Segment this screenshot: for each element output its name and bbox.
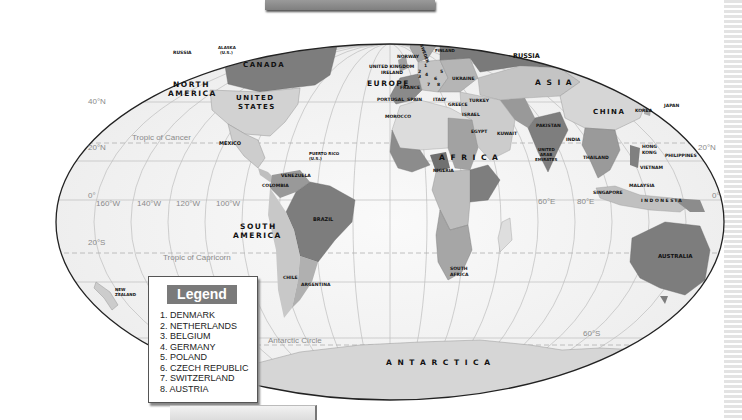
ukraine-label: UKRAINE <box>452 76 475 81</box>
mexico-label: MEXICO <box>219 140 241 146</box>
legend-item: 6. CZECH REPUBLIC <box>160 363 249 374</box>
nigeria-label: NIGERIA <box>433 168 454 173</box>
europe-number-3: 3 <box>418 74 421 79</box>
lat-40n-label: 40°N <box>88 97 106 106</box>
bottom-bar <box>170 405 317 420</box>
lat-20s-label: 20°S <box>88 238 105 247</box>
north-america-label-2: AMERICA <box>168 89 217 98</box>
brazil-label: BRAZIL <box>313 216 334 222</box>
legend-item: 2. NETHERLANDS <box>160 321 249 332</box>
lat-0-right-label: 0° <box>712 191 720 200</box>
norway-label: NORWAY <box>397 54 420 59</box>
south-africa-label-2: AFRICA <box>450 272 469 277</box>
indonesia-label: I N D O N E S I A <box>641 198 682 203</box>
israel-label: ISRAEL <box>462 112 480 117</box>
legend-item: 5. POLAND <box>160 352 249 363</box>
south-america-label-1: SOUTH <box>240 222 277 231</box>
pakistan-label: PAKISTAN <box>536 123 561 128</box>
lat-20n-left-label: 20°N <box>88 143 106 152</box>
china-label: CHINA <box>593 108 625 116</box>
canada-label: CANADA <box>243 61 285 69</box>
land-greenland <box>318 14 372 48</box>
legend-item: 7. SWITZERLAND <box>160 373 249 384</box>
france-label: FRANCE <box>400 85 420 90</box>
tropic-of-cancer-label: Tropic of Cancer <box>132 133 191 142</box>
tropic-of-capricorn-label: Tropic of Capricorn <box>163 253 231 262</box>
africa-label: A F R I C A <box>439 153 499 162</box>
greece-label: GREECE <box>448 102 468 107</box>
lat-0-left-label: 0° <box>88 191 96 200</box>
legend-list: 1. DENMARK 2. NETHERLANDS 3. BELGIUM 4. … <box>160 310 249 394</box>
europe-number-6: 6 <box>434 76 437 81</box>
korea-label: KOREA <box>635 108 653 113</box>
kuwait-label: KUWAIT <box>497 131 518 136</box>
united-kingdom-label: UNITED KINGDOM <box>369 64 415 69</box>
asia-label: A S I A <box>535 78 573 87</box>
spain-label: SPAIN <box>407 97 422 102</box>
thailand-label: THAILAND <box>583 155 609 160</box>
lat-60s-label: 60°S <box>583 329 600 338</box>
land-japan <box>658 92 670 112</box>
india-label: INDIA <box>566 137 581 142</box>
chile-label: CHILE <box>283 275 298 280</box>
portugal-label: PORTUGAL <box>377 97 404 102</box>
puerto-rico-label-2: (U.S.) <box>309 156 322 161</box>
argentina-label: ARGENTINA <box>301 282 331 287</box>
antarctica-label: A N T A R C T I C A <box>386 358 492 367</box>
lon-80e-label: 80°E <box>577 197 594 206</box>
new-zealand-label-2: ZEALAND <box>115 292 137 297</box>
lon-140w-label: 140°W <box>137 199 162 208</box>
lon-160w-label: 160°W <box>96 199 121 208</box>
lon-60e-label: 60°E <box>538 197 555 206</box>
turkey-label: TURKEY <box>469 98 490 103</box>
legend-title: Legend <box>167 285 237 304</box>
vietnam-label: VIETNAM <box>640 165 664 170</box>
europe-number-5: 5 <box>440 69 443 74</box>
morocco-label: MOROCCO <box>385 114 411 119</box>
russia-west-label: RUSSIA <box>173 50 192 55</box>
united-states-label-1: UNITED <box>236 94 275 102</box>
lat-20n-right-label: 20°N <box>698 143 716 152</box>
finland-label: FINLAND <box>435 48 456 53</box>
legend-box: Legend 1. DENMARK 2. NETHERLANDS 3. BELG… <box>148 276 258 403</box>
malaysia-label: MALAYSIA <box>629 183 655 188</box>
australia-label: AUSTRALIA <box>658 253 693 259</box>
italy-label: ITALY <box>433 97 447 102</box>
united-states-label-2: STATES <box>238 103 276 111</box>
japan-label: JAPAN <box>663 103 680 108</box>
venezuela-label: VENEZUELA <box>281 173 311 178</box>
lon-120w-label: 120°W <box>176 199 201 208</box>
lon-100w-label: 100°W <box>216 199 241 208</box>
europe-number-8: 8 <box>437 82 440 87</box>
alaska-label-2: (U.S.) <box>220 50 233 55</box>
legend-item: 1. DENMARK <box>160 310 249 321</box>
russia-east-label: RUSSIA <box>513 52 540 60</box>
europe-number-1: 1 <box>424 63 427 68</box>
antarctic-circle-label: Antarctic Circle <box>268 336 322 345</box>
egypt-label: EGYPT <box>471 129 488 134</box>
europe-number-7: 7 <box>427 82 430 87</box>
hong-kong-label-2: KONG <box>642 150 657 155</box>
legend-item: 4. GERMANY <box>160 342 249 353</box>
north-america-label-1: NORTH <box>173 80 210 89</box>
uae-label-3: EMIRATES <box>535 157 558 162</box>
singapore-label: SINGAPORE <box>593 190 623 195</box>
europe-number-4: 4 <box>425 72 428 77</box>
south-africa-label-1: SOUTH <box>450 266 468 271</box>
south-america-label-2: AMERICA <box>233 231 282 240</box>
legend-item: 8. AUSTRIA <box>160 384 249 395</box>
ireland-label: IRELAND <box>381 70 403 75</box>
hong-kong-label-1: HONG <box>642 144 657 149</box>
colombia-label: COLOMBIA <box>262 183 289 188</box>
legend-item: 3. BELGIUM <box>160 331 249 342</box>
philippines-label: PHILIPPINES <box>665 153 697 158</box>
